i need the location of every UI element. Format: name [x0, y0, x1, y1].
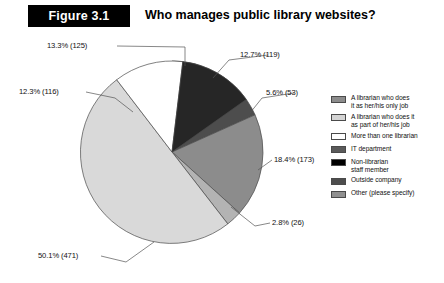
- legend-item-label: A librarian who does itas part of her/hi…: [351, 113, 414, 130]
- legend-item[interactable]: Other (please specify): [331, 189, 443, 200]
- legend-swatch-icon: [331, 133, 346, 140]
- data-label-other: 2.8% (26): [272, 218, 304, 227]
- legend-item[interactable]: A librarian who does itas part of her/hi…: [331, 113, 443, 130]
- legend-swatch-icon: [331, 114, 346, 121]
- data-label-more-than-one: 12.3% (116): [19, 87, 59, 96]
- data-label-it-department: 12.7% (119): [240, 50, 280, 59]
- data-label-non-librarian: 13.3% (125): [47, 41, 87, 50]
- legend-item[interactable]: A librarian who doesit as her/his only j…: [331, 94, 443, 111]
- legend-item-label: Non-librarianstaff member: [351, 158, 389, 175]
- pie-slice-group: [80, 61, 263, 243]
- legend-item-label: More than one librarian: [351, 132, 418, 140]
- leader-line-librarian-part-job: [101, 242, 154, 262]
- data-label-outside-company: 5.6% (53): [266, 88, 298, 97]
- legend-swatch-icon: [331, 146, 346, 153]
- legend-item[interactable]: Outside company: [331, 176, 443, 187]
- data-label-librarian-only-job: 18.4% (173): [274, 155, 314, 164]
- legend-swatch-icon: [331, 159, 346, 166]
- legend-swatch-icon: [331, 178, 346, 185]
- legend-item-label: Other (please specify): [351, 189, 414, 197]
- legend-swatch-icon: [331, 191, 346, 198]
- figure-container: Figure 3.1 Who manages public library we…: [0, 0, 444, 283]
- legend-item[interactable]: IT department: [331, 145, 443, 156]
- legend-item-label: IT department: [351, 145, 391, 153]
- data-label-librarian-part-job: 50.1% (471): [38, 251, 78, 260]
- legend-item[interactable]: More than one librarian: [331, 132, 443, 143]
- legend-item[interactable]: Non-librarianstaff member: [331, 158, 443, 175]
- legend-item-label: A librarian who doesit as her/his only j…: [351, 94, 409, 111]
- legend-swatch-icon: [331, 96, 346, 103]
- legend-item-label: Outside company: [351, 176, 402, 184]
- chart-legend: A librarian who doesit as her/his only j…: [331, 94, 443, 202]
